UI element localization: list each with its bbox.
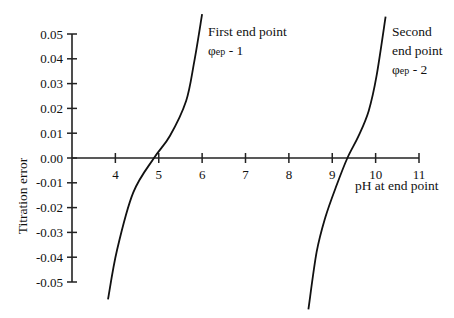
- y-tick-label: -0.04: [36, 250, 64, 265]
- y-tick-label: 0.05: [40, 27, 63, 42]
- annotation-second-end-point: Second end point φep - 2: [392, 24, 443, 77]
- y-tick-label: 0.04: [40, 51, 63, 66]
- first-end-point-curve: [108, 14, 202, 299]
- y-tick-label: -0.01: [36, 175, 63, 190]
- x-tick-label: 9: [329, 167, 336, 182]
- curves: [108, 14, 386, 309]
- y-tick-label: -0.05: [36, 275, 63, 290]
- annotation-second-suffix: - 2: [409, 62, 427, 77]
- y-tick-label: 0.02: [40, 101, 63, 116]
- x-tick-label: 6: [199, 167, 206, 182]
- axes: 0.050.040.030.020.010.00-0.01-0.02-0.03-…: [36, 27, 425, 290]
- phi-symbol: φ: [208, 43, 216, 58]
- subscript-ep: ep: [400, 65, 409, 76]
- x-tick-label: 4: [112, 167, 119, 182]
- annotation-second-line2: end point: [392, 43, 443, 58]
- second-end-point-curve: [308, 17, 385, 310]
- titration-error-chart: 0.050.040.030.020.010.00-0.01-0.02-0.03-…: [0, 0, 454, 318]
- y-tick-label: 0.00: [40, 151, 63, 166]
- annotation-first-line2: φep - 1: [208, 43, 243, 58]
- annotation-first-end-point: First end point φep - 1: [208, 24, 287, 58]
- annotation-second-line3: φep - 2: [392, 62, 427, 77]
- y-tick-label: 0.03: [40, 76, 63, 91]
- x-axis-label: pH at end point: [355, 178, 439, 193]
- annotation-first-suffix: - 1: [225, 43, 243, 58]
- annotation-first-line1: First end point: [208, 24, 287, 39]
- phi-symbol: φ: [392, 62, 400, 77]
- x-tick-label: 8: [286, 167, 293, 182]
- annotation-second-line1: Second: [392, 24, 432, 39]
- y-tick-label: -0.03: [36, 225, 63, 240]
- y-tick-label: -0.02: [36, 200, 63, 215]
- y-tick-label: 0.01: [40, 126, 63, 141]
- x-tick-label: 5: [156, 167, 163, 182]
- subscript-ep: ep: [216, 46, 225, 57]
- y-axis-label: Titration error: [15, 157, 30, 234]
- y-ticks: 0.050.040.030.020.010.00-0.01-0.02-0.03-…: [36, 27, 77, 290]
- x-tick-label: 7: [242, 167, 249, 182]
